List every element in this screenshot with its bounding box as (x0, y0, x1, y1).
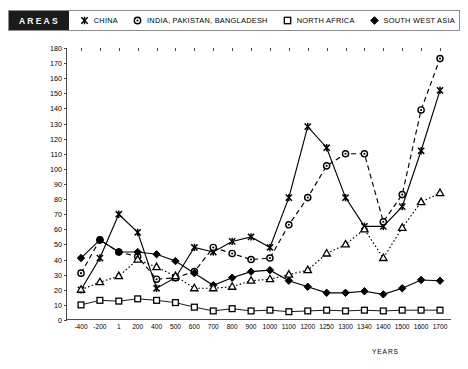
legend-item-north_africa[interactable]: NORTH AFRICA (282, 15, 355, 26)
chart-data-point (324, 163, 330, 169)
legend-item-china[interactable]: CHINA (79, 15, 118, 26)
y-axis-tick-label: 100 (50, 164, 62, 173)
x-axis-tick-mark (81, 48, 82, 51)
y-axis-tick-mark (64, 93, 67, 94)
x-axis-tick-label: 1000 (263, 323, 278, 330)
chart-data-point (380, 308, 386, 314)
cross-star-icon (79, 15, 90, 26)
chart-data-point (304, 283, 311, 290)
x-axis-tick-label: -200 (93, 323, 106, 330)
chart-data-point (267, 307, 273, 313)
x-axis-tick-mark (232, 48, 233, 51)
chart-data-point (135, 296, 141, 302)
chart-series (77, 236, 443, 298)
chart-data-point (342, 240, 349, 246)
chart-data-point (266, 275, 273, 281)
chart-data-point (267, 244, 273, 251)
x-axis-tick-mark (213, 48, 214, 51)
chart-data-point (305, 123, 311, 130)
chart-data-point (380, 219, 386, 225)
chart-data-point (267, 255, 273, 261)
y-axis-tick-mark (64, 260, 67, 261)
chart-data-point (399, 285, 406, 292)
y-axis-tick-label: 10 (54, 300, 62, 309)
x-axis-tick-label: 400 (151, 323, 162, 330)
chart-data-point (436, 277, 443, 284)
x-axis-tick-mark (421, 48, 422, 51)
x-axis-tick-mark (175, 48, 176, 51)
chart-series (78, 296, 443, 315)
x-axis-tick-label: 1250 (319, 323, 334, 330)
legend-item-sw_asia[interactable]: SOUTH WEST ASIA (369, 15, 455, 26)
chart-data-point (361, 288, 368, 295)
y-axis-tick-mark (64, 154, 67, 155)
y-axis-tick-mark (64, 199, 67, 200)
chart-data-point (380, 254, 387, 260)
chart-data-point (324, 144, 330, 151)
x-axis-title: YEARS (372, 348, 399, 355)
y-axis-tick-mark (64, 139, 67, 140)
chart-data-point (266, 266, 273, 273)
chart-data-point (342, 289, 349, 296)
chart-data-point (248, 256, 254, 262)
chart-data-point (286, 222, 292, 228)
chart-data-point (229, 306, 235, 312)
chart-data-point (210, 308, 216, 314)
x-axis-tick-label: 500 (170, 323, 181, 330)
y-axis-tick-mark (64, 78, 67, 79)
y-axis-tick-label: 60 (54, 225, 62, 234)
chart-data-point (78, 270, 84, 276)
x-axis-tick-label: 1100 (282, 323, 296, 330)
chart-data-point (135, 229, 141, 236)
x-axis-tick-label: 600 (189, 323, 200, 330)
x-axis-tick-mark (402, 48, 403, 51)
chart-data-point (210, 244, 216, 250)
chart-data-point (285, 271, 292, 277)
chart-data-point (305, 195, 311, 201)
x-axis-tick-label: 1300 (338, 323, 353, 330)
x-axis-tick-mark (157, 48, 158, 51)
chart-data-point (399, 307, 405, 313)
x-axis-tick-label: 1400 (376, 323, 391, 330)
chart-data-point (361, 151, 367, 157)
chart-data-point (437, 307, 443, 313)
y-axis-tick-mark (64, 63, 67, 64)
y-axis-tick-label: 80 (54, 195, 62, 204)
chart-data-point (380, 291, 387, 298)
chart-data-point (153, 276, 159, 282)
y-axis-tick-label: 110 (51, 149, 62, 158)
chart-data-point (191, 304, 197, 310)
y-axis-tick-label: 120 (50, 134, 62, 143)
chart-series (78, 87, 443, 294)
open-square-icon (282, 15, 293, 26)
chart-data-point (228, 283, 235, 289)
chart-data-point (362, 307, 368, 313)
chart-data-point (418, 147, 424, 154)
chart-data-point (191, 284, 198, 290)
chart-data-point (78, 302, 84, 308)
x-axis-tick-mark (364, 48, 365, 51)
x-axis-tick-mark (119, 48, 120, 51)
chart-data-point (324, 307, 330, 313)
x-axis-tick-label: 200 (132, 323, 143, 330)
chart-data-point (285, 277, 292, 284)
y-axis-tick-mark (64, 169, 67, 170)
x-axis-tick-label: -400 (74, 323, 87, 330)
y-axis-tick-mark (64, 108, 67, 109)
chart-data-point (323, 289, 330, 296)
x-axis-tick-label: 1200 (300, 323, 315, 330)
chart-data-point (229, 250, 235, 256)
y-axis-tick-mark (64, 229, 67, 230)
chart-data-point (418, 307, 424, 313)
x-axis-tick-label: 1 (117, 323, 121, 330)
chart-data-point (417, 198, 424, 204)
legend-title: AREAS (9, 11, 69, 30)
filled-diamond-icon (369, 15, 380, 26)
legend-item-india[interactable]: INDIA, PAKISTAN, BANGLADESH (132, 15, 268, 26)
legend-item-label: INDIA, PAKISTAN, BANGLADESH (147, 16, 268, 25)
x-axis-tick-label: 700 (208, 323, 219, 330)
chart-data-point (173, 300, 179, 306)
chart-data-point (305, 308, 311, 314)
chart-data-point (97, 254, 103, 261)
chart-data-point (115, 272, 122, 278)
